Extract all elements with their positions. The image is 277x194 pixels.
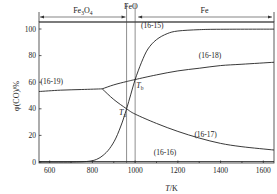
curves: [39, 29, 274, 162]
point-label-Tb: Tb: [136, 81, 143, 91]
x-tick-label: 1000: [128, 166, 143, 175]
x-axis-unit: /K: [170, 184, 178, 193]
point-label-Ta: Ta: [119, 108, 126, 118]
curve-16-19: [39, 89, 102, 92]
phase-label-fe3o4: Fe3O4: [73, 6, 93, 16]
curve-label-16-19: (16-19): [41, 77, 64, 86]
x-axis-title: T/K: [165, 184, 178, 193]
curve-label-16-17: (16-17): [194, 130, 217, 139]
phase-label-feo: FeO: [124, 2, 138, 11]
y-axis-title: φ(CO)/%: [12, 81, 21, 111]
y-tick-label: 20: [29, 131, 37, 140]
fe3o4-range-arrow-left-arrowhead: [40, 16, 44, 19]
phase-bar: Fe3O4FeOFe: [39, 2, 274, 22]
x-tick-label: 800: [87, 166, 99, 175]
point-label-sub: a: [124, 112, 127, 118]
curve-16-15: [39, 29, 274, 162]
y-tick-label: 100: [25, 25, 37, 34]
x-tick-label: 1400: [213, 166, 228, 175]
x-tick-label: 1200: [170, 166, 185, 175]
y-tick-label: 80: [29, 51, 37, 60]
y-tick-label: 60: [29, 78, 37, 87]
chart: Fe3O4FeOFe 02040608010060080010001200140…: [0, 0, 277, 194]
x-tick-label: 1600: [256, 166, 271, 175]
plot-frame: [39, 22, 274, 163]
y-tick-label: 40: [29, 104, 37, 113]
fe-range-arrow-left-arrowhead: [138, 16, 142, 19]
phase-label-fe: Fe: [201, 6, 209, 15]
y-tick-label: 0: [32, 158, 36, 167]
curve-16-17: [102, 89, 274, 150]
curve-label-16-16: (16-16): [154, 148, 177, 157]
curve-label-16-18: (16-18): [199, 51, 222, 60]
phase-label-part: 4: [90, 10, 93, 16]
axes: 0204060801006008001000120014001600T/Kφ(C…: [12, 22, 274, 193]
fe3o4-range-arrow-right-arrowhead: [122, 16, 126, 19]
fe-range-arrow-right-arrowhead: [268, 16, 272, 19]
curve-16-18: [102, 62, 274, 89]
point-label-sub: b: [141, 85, 144, 91]
curve-labels: (16-15)(16-18)(16-19)(16-17)(16-16)TaTb: [41, 21, 222, 158]
x-tick-label: 600: [44, 166, 56, 175]
curve-label-16-15: (16-15): [141, 21, 164, 30]
